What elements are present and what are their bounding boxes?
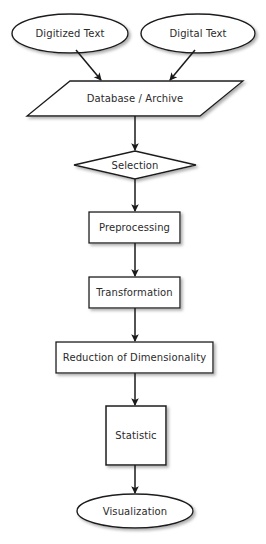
node-database-archive[interactable] xyxy=(27,81,243,116)
node-selection[interactable] xyxy=(74,151,196,179)
node-visualization[interactable] xyxy=(77,494,193,528)
edge-digitized-text-to-database xyxy=(76,50,101,80)
edge-digital-text-to-database xyxy=(170,50,195,80)
flowchart-canvas: Digitized Text Digital Text Database / A… xyxy=(0,0,266,544)
node-digitized-text[interactable] xyxy=(12,14,128,53)
node-transformation[interactable] xyxy=(89,277,180,308)
node-reduction-of-dimensionality[interactable] xyxy=(56,342,213,373)
node-statistic[interactable] xyxy=(106,406,166,465)
node-preprocessing[interactable] xyxy=(89,212,180,243)
node-digital-text[interactable] xyxy=(141,14,255,53)
